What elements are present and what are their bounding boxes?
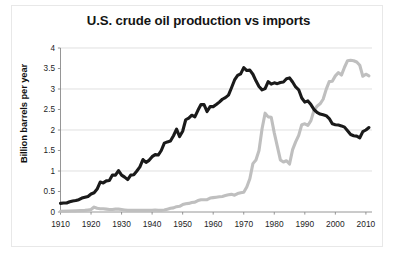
x-tick-label: 1940	[143, 219, 162, 229]
y-tick-label: 0	[50, 208, 55, 217]
x-tick-label: 1970	[234, 219, 253, 229]
data-series	[61, 60, 369, 211]
x-tick-label: 1950	[173, 219, 192, 229]
y-tick-labels: 00.511.522.533.54	[44, 44, 61, 217]
x-tick-label: 1960	[204, 219, 223, 229]
y-tick-label: 4	[50, 44, 55, 53]
x-tick-label: 2000	[326, 219, 345, 229]
series-line-imports	[61, 60, 369, 211]
x-tick-label: 2010	[357, 219, 376, 229]
series-line-production	[61, 68, 369, 204]
y-tick-label: 1	[50, 167, 55, 176]
x-tick-label: 1920	[82, 219, 101, 229]
x-tick-label: 1930	[112, 219, 131, 229]
y-tick-label: 3.5	[44, 64, 56, 73]
y-tick-label: 1.5	[44, 146, 56, 155]
gridlines	[61, 48, 373, 171]
x-tick-label: 1980	[265, 219, 284, 229]
y-tick-label: 2.5	[44, 105, 56, 114]
y-tick-label: 2	[50, 126, 55, 135]
chart-figure: U.S. crude oil production vs imports Bil…	[0, 0, 397, 260]
y-tick-label: 0.5	[44, 187, 56, 196]
y-tick-label: 3	[50, 85, 55, 94]
line-chart-plot: 00.511.522.533.54 1910192019301940195019…	[0, 0, 397, 260]
x-tick-labels: 1910192019301940195019601970198019902000…	[51, 212, 375, 229]
x-tick-label: 1910	[51, 219, 70, 229]
x-tick-label: 1990	[295, 219, 314, 229]
